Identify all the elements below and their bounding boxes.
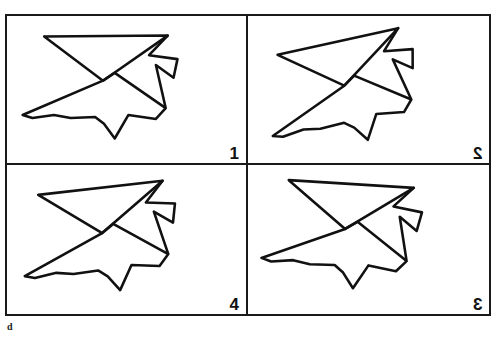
- figure-caption: d: [7, 322, 13, 332]
- panel-1[interactable]: 1: [7, 16, 248, 165]
- shape-drawing-panel-1: [7, 16, 246, 163]
- panel-label-2: 2: [473, 145, 482, 162]
- panel-2[interactable]: 2: [248, 16, 489, 165]
- shape-drawing-panel-3: [248, 165, 489, 314]
- figure-frame: 1 2 4: [5, 14, 491, 316]
- panel-4[interactable]: 4: [7, 165, 248, 314]
- panel-label-3: 3: [473, 296, 482, 313]
- shape-drawing-panel-4: [7, 165, 246, 314]
- panel-label-1: 1: [230, 145, 239, 162]
- panel-3[interactable]: 3: [248, 165, 489, 314]
- shape-drawing-panel-2: [248, 16, 489, 163]
- panel-grid: 1 2 4: [7, 16, 489, 314]
- panel-label-4: 4: [230, 296, 239, 313]
